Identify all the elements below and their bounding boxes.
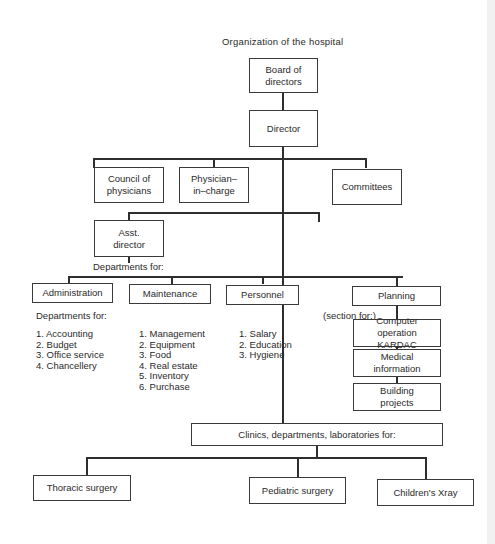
node-clinics: Clinics, departments, laboratories for:	[191, 423, 443, 446]
node-personnel: Personnel	[226, 285, 299, 305]
list-item: 4. Chancellery	[36, 361, 104, 372]
connector-line	[297, 457, 299, 478]
connector-line	[425, 457, 427, 479]
list-item: 5. Inventory	[139, 371, 205, 382]
node-medical-information: Medical information	[353, 349, 441, 377]
node-administration: Administration	[32, 283, 113, 303]
node-label: Children's Xray	[393, 487, 457, 499]
connector-line	[282, 212, 319, 214]
node-planning: Planning	[352, 286, 441, 306]
node-label: Clinics, departments, laboratories for:	[238, 429, 395, 441]
node-label: Pediatric surgery	[262, 485, 333, 497]
list-item: 1. Management	[139, 329, 205, 340]
node-label: Thoracic surgery	[47, 482, 118, 494]
list-item: 3. Office service	[36, 350, 104, 361]
node-building-projects: Building projects	[353, 383, 441, 411]
node-board-of-directors: Board of directors	[249, 58, 318, 93]
node-maintenance: Maintenance	[129, 284, 211, 304]
node-label: Director	[267, 123, 300, 135]
connector-line	[282, 93, 284, 111]
connector-line	[86, 457, 88, 476]
administration-departments-label: Departments for:	[36, 310, 107, 321]
node-council-of-physicians: Council of physicians	[94, 167, 164, 203]
node-label: Committees	[342, 181, 393, 193]
connector-line	[86, 457, 427, 459]
node-label: Computer operation KARDAC	[357, 315, 437, 351]
list-item: 6. Purchase	[139, 382, 205, 393]
node-thoracic-surgery: Thoracic surgery	[33, 475, 131, 501]
node-label: Medical information	[362, 351, 432, 375]
personnel-list: 1. Salary 2. Education 3. Hygiene	[239, 329, 292, 361]
node-label: Administration	[42, 287, 102, 299]
connector-line	[262, 276, 264, 284]
connector-line	[282, 158, 367, 160]
connector-line	[318, 212, 320, 222]
diagram-title: Organization of the hospital	[222, 36, 343, 47]
connector-line	[68, 276, 403, 278]
node-label: Physician–in–charge	[188, 173, 240, 197]
node-director: Director	[249, 110, 318, 147]
node-asst-director: Asst. director	[94, 220, 164, 257]
node-label: Personnel	[241, 289, 284, 301]
administration-list: 1. Accounting 2. Budget 3. Office servic…	[36, 329, 104, 371]
connector-line	[396, 276, 398, 286]
list-item: 3. Hygiene	[239, 350, 292, 361]
node-label: Planning	[378, 290, 415, 302]
list-item: 1. Accounting	[36, 329, 104, 340]
connector-line	[128, 212, 283, 214]
node-label: Board of directors	[257, 64, 311, 88]
node-physician-in-charge: Physician–in–charge	[179, 167, 249, 203]
node-label: Asst. director	[107, 227, 151, 251]
departments-for-label: Departments for:	[93, 261, 164, 272]
node-label: Council of physicians	[98, 173, 160, 197]
maintenance-list: 1. Management 2. Equipment 3. Food 4. Re…	[139, 329, 205, 392]
node-committees: Committees	[332, 169, 402, 205]
list-item: 1. Salary	[239, 329, 292, 340]
node-childrens-xray: Children's Xray	[377, 479, 474, 506]
node-label: Building projects	[372, 385, 422, 409]
page-shade	[487, 0, 495, 544]
connector-line	[171, 276, 173, 284]
node-computer-operation: Computer operation KARDAC	[353, 319, 441, 347]
node-label: Maintenance	[143, 288, 197, 300]
node-pediatric-surgery: Pediatric surgery	[249, 477, 346, 504]
list-item: 3. Food	[139, 350, 205, 361]
